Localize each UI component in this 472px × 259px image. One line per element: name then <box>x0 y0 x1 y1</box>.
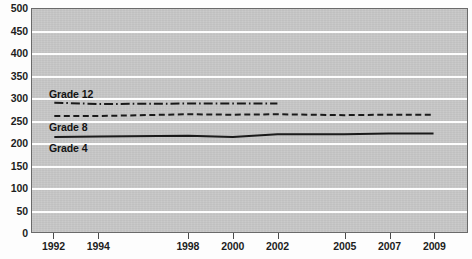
series-label: Grade 8 <box>49 121 87 133</box>
x-tick-mark <box>345 233 346 239</box>
x-tick-label: 1998 <box>176 240 199 252</box>
x-tick-label: 1992 <box>42 240 65 252</box>
x-tick-label: 2002 <box>266 240 289 252</box>
y-tick-label: 0 <box>0 228 28 238</box>
plot-area <box>31 8 468 233</box>
series-line-grade-12 <box>54 103 277 104</box>
y-tick-label: 250 <box>0 116 28 126</box>
series-label: Grade 4 <box>49 142 87 154</box>
y-tick-label: 100 <box>0 183 28 193</box>
x-tick-mark <box>278 233 279 239</box>
line-chart: 500450400350300250200150100500 199219941… <box>0 0 472 259</box>
y-tick-label: 350 <box>0 71 28 81</box>
x-tick-mark <box>233 233 234 239</box>
x-tick-label: 2005 <box>333 240 356 252</box>
y-tick-label: 450 <box>0 26 28 36</box>
series-label: Grade 12 <box>49 88 93 100</box>
x-tick-mark <box>390 233 391 239</box>
series-line-grade-8 <box>54 114 433 116</box>
y-tick-label: 300 <box>0 93 28 103</box>
x-tick-label: 2009 <box>423 240 446 252</box>
x-tick-mark <box>434 233 435 239</box>
y-axis: 500450400350300250200150100500 <box>0 0 28 259</box>
x-tick-mark <box>53 233 54 239</box>
y-tick-label: 150 <box>0 161 28 171</box>
x-tick-label: 2007 <box>378 240 401 252</box>
series-line-grade-4 <box>54 133 433 137</box>
x-axis: 19921994199820002002200520072009 <box>31 240 468 256</box>
y-tick-label: 200 <box>0 138 28 148</box>
y-tick-label: 500 <box>0 3 28 13</box>
series-lines <box>32 9 467 232</box>
x-axis-ticks <box>31 233 468 239</box>
x-tick-mark <box>188 233 189 239</box>
x-tick-mark <box>98 233 99 239</box>
y-tick-label: 50 <box>0 206 28 216</box>
x-tick-label: 2000 <box>221 240 244 252</box>
x-tick-label: 1994 <box>87 240 110 252</box>
y-tick-label: 400 <box>0 48 28 58</box>
